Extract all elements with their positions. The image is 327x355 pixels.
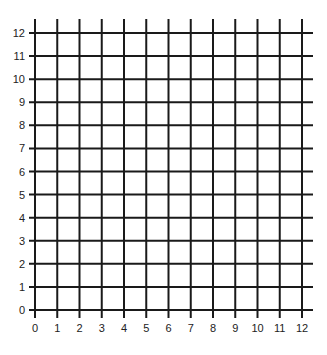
y-tick-label: 11 <box>14 50 25 62</box>
x-tick-label: 4 <box>121 322 127 334</box>
coordinate-grid: 0123456789101112 0123456789101112 <box>0 0 327 355</box>
y-tick-label: 8 <box>19 119 25 131</box>
y-tick-label: 12 <box>13 27 25 39</box>
x-tick-label: 2 <box>76 322 82 334</box>
x-tick-label: 6 <box>165 322 171 334</box>
x-tick-label: 12 <box>296 322 308 334</box>
y-tick-label: 3 <box>19 235 25 247</box>
x-tick-label: 0 <box>32 322 38 334</box>
vertical-grid-lines <box>35 19 302 318</box>
x-axis-labels: 0123456789101112 <box>32 322 308 334</box>
y-tick-label: 10 <box>13 73 25 85</box>
y-tick-label: 4 <box>19 212 25 224</box>
x-tick-label: 3 <box>99 322 105 334</box>
x-tick-label: 5 <box>143 322 149 334</box>
y-tick-label: 6 <box>19 166 25 178</box>
x-tick-label: 9 <box>232 322 238 334</box>
horizontal-grid-lines <box>29 33 313 310</box>
y-tick-label: 9 <box>19 96 25 108</box>
y-tick-label: 2 <box>19 258 25 270</box>
x-tick-label: 8 <box>210 322 216 334</box>
y-tick-label: 7 <box>19 142 25 154</box>
x-tick-label: 1 <box>54 322 60 334</box>
y-axis-labels: 0123456789101112 <box>13 27 25 316</box>
x-tick-label: 7 <box>188 322 194 334</box>
y-tick-label: 0 <box>19 304 25 316</box>
y-tick-label: 1 <box>19 281 25 293</box>
x-tick-label: 11 <box>274 322 285 334</box>
y-tick-label: 5 <box>19 189 25 201</box>
x-tick-label: 10 <box>251 322 263 334</box>
